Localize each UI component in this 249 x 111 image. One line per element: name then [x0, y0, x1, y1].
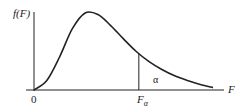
density-curve	[34, 12, 213, 90]
tail-area-label: α	[153, 74, 159, 85]
y-axis-label: f(F)	[13, 7, 30, 20]
x-axis-label: F	[227, 83, 235, 95]
critical-value-subscript: α	[144, 99, 149, 108]
origin-label: 0	[31, 93, 37, 105]
f-distribution-diagram: f(F) 0 Fα α F	[0, 0, 249, 111]
critical-value-label: Fα	[136, 93, 149, 108]
